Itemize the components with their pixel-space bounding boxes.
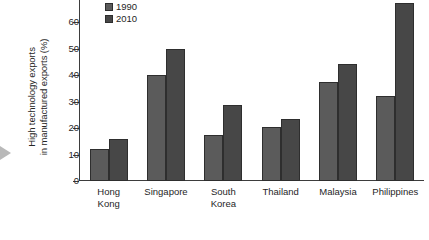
bar-group	[204, 0, 242, 181]
bar-group	[376, 0, 414, 181]
bar-1990[interactable]	[376, 96, 395, 181]
bar-1990[interactable]	[319, 82, 338, 181]
x-axis-category-label: Philippines	[361, 186, 429, 198]
bar-2010[interactable]	[223, 105, 242, 181]
bar-1990[interactable]	[147, 75, 166, 181]
bar-2010[interactable]	[166, 49, 185, 182]
bar-group	[262, 0, 300, 181]
bar-2010[interactable]	[281, 119, 300, 181]
y-axis-tick-label: 20	[55, 122, 79, 133]
bar-group	[147, 0, 185, 181]
legend-swatch-1990	[105, 3, 113, 11]
y-axis-tick-label: 60	[55, 16, 79, 27]
left-edge-pointer-icon	[0, 146, 11, 160]
legend-item-2010: 2010	[105, 13, 137, 24]
bar-1990[interactable]	[204, 135, 223, 181]
bar-1990[interactable]	[262, 127, 281, 181]
bar-chart-figure: High technology exports in manufactured …	[0, 0, 429, 240]
bar-2010[interactable]	[109, 139, 128, 181]
bar-group	[319, 0, 357, 181]
legend-swatch-2010	[105, 15, 113, 23]
legend-item-1990: 1990	[105, 1, 137, 12]
bar-2010[interactable]	[338, 64, 357, 181]
y-axis-title: High technology exports in manufactured …	[26, 12, 52, 182]
plot-area	[80, 0, 424, 181]
legend-label-1990: 1990	[116, 2, 137, 12]
bar-2010[interactable]	[395, 3, 414, 181]
bar-1990[interactable]	[90, 149, 109, 181]
y-axis-tick-label: 0	[55, 175, 79, 186]
legend-label-2010: 2010	[116, 14, 137, 24]
y-axis-tick-label: 40	[55, 69, 79, 80]
y-axis-tick-label: 50	[55, 43, 79, 54]
chart-legend: 1990 2010	[105, 1, 137, 25]
y-axis-tick-label: 10	[55, 149, 79, 160]
bar-group	[90, 0, 128, 181]
y-axis-tick-label: 30	[55, 96, 79, 107]
